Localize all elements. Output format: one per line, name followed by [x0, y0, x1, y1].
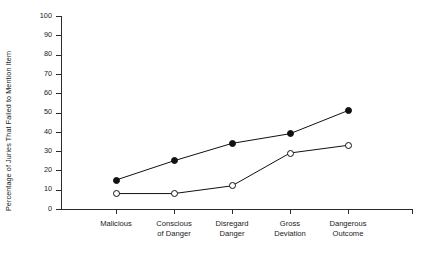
data-point-marker — [287, 130, 294, 137]
data-point-marker — [345, 142, 352, 149]
data-point-marker — [113, 190, 120, 197]
data-point-marker — [113, 177, 120, 184]
data-point-marker — [229, 140, 236, 147]
data-point-marker — [171, 157, 178, 164]
data-point-marker — [229, 182, 236, 189]
data-point-marker — [345, 107, 352, 114]
data-point-marker — [171, 190, 178, 197]
line-chart: Percentage of Juries That Failed to Ment… — [0, 0, 428, 262]
series-lines — [0, 0, 428, 262]
data-point-marker — [287, 150, 294, 157]
plot-area: 0102030405060708090100 MaliciousConsciou… — [0, 0, 428, 262]
